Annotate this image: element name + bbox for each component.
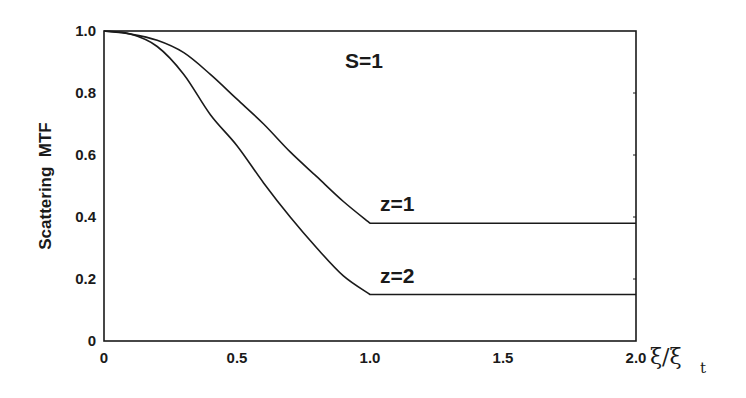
annotation-s: S=1 xyxy=(345,49,383,72)
x-axis-label-main: ξ/ξ xyxy=(650,344,682,369)
x-axis-label-subscript: t xyxy=(700,359,706,377)
x-tick-label: 1.0 xyxy=(360,349,381,366)
y-tick-label: 0.2 xyxy=(75,270,96,287)
annotation-z2: z=2 xyxy=(380,264,414,287)
y-tick-label: 0.6 xyxy=(75,146,96,163)
y-tick-label: 1.0 xyxy=(75,22,96,39)
x-axis-ticks: 00.51.01.52.0 xyxy=(100,349,647,366)
x-tick-label: 0.5 xyxy=(227,349,248,366)
x-tick-label: 1.5 xyxy=(493,349,514,366)
y-tick-label: 0.4 xyxy=(75,208,97,225)
x-axis-label: ξ/ξ t xyxy=(650,344,706,377)
x-tick-label: 2.0 xyxy=(626,349,647,366)
annotation-z1: z=1 xyxy=(380,192,415,215)
y-tick-label: 0.8 xyxy=(75,84,96,101)
y-axis-label: Scattering MTF xyxy=(36,122,55,250)
mtf-chart: 00.20.40.60.81.0 00.51.01.52.0 Scatterin… xyxy=(0,0,746,398)
x-tick-label: 0 xyxy=(100,349,108,366)
y-tick-label: 0 xyxy=(88,332,96,349)
